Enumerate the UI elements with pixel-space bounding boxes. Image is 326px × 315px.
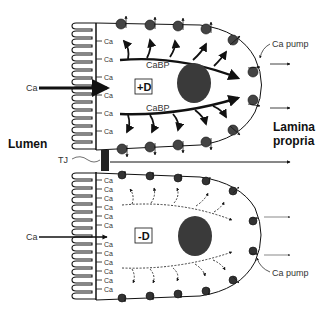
ca-pump-label-bottom: Ca pump: [272, 268, 309, 278]
ca-site-label: Ca: [104, 38, 113, 45]
lumen-label: Lumen: [8, 137, 47, 151]
ca-entry-label-top: Ca: [26, 83, 38, 93]
cabp-label-lower: CaBP: [146, 103, 170, 113]
ca-site-label: Ca: [104, 250, 113, 257]
ca-entry-label-bottom: Ca: [26, 232, 38, 242]
minus-d-label: -D: [138, 230, 150, 242]
ca-site-label: Ca: [104, 213, 113, 220]
nucleus-top: [177, 63, 211, 103]
ca-site-label: Ca: [104, 241, 113, 248]
ca-site-label: Ca: [104, 56, 113, 63]
minus-d-cell: Ca Ca Ca Ca Ca Ca Ca Ca Ca Ca Ca Ca Ca: [26, 171, 309, 302]
ca-site-label: Ca: [104, 268, 113, 275]
tight-junction: [101, 150, 109, 171]
ca-pump-pointer-top: [260, 44, 270, 58]
ca-site-label: Ca: [104, 110, 113, 117]
ca-site-label: Ca: [104, 259, 113, 266]
ca-site-label: Ca: [104, 92, 113, 99]
plus-d-cell: Ca Ca Ca Ca Ca Ca Ca CaBP CaBP: [26, 16, 309, 157]
lamina-propria-label-line2: propria: [273, 134, 315, 148]
tj-pointer: [72, 157, 100, 162]
ca-pump-pointer-bottom: [257, 258, 270, 272]
cabp-label-upper: CaBP: [146, 60, 170, 70]
ca-site-label: Ca: [104, 286, 113, 293]
ca-site-label: Ca: [104, 186, 113, 193]
ca-site-label: Ca: [104, 177, 113, 184]
tj-label: TJ: [58, 155, 68, 165]
ca-pump-label-top: Ca pump: [272, 39, 309, 49]
ca-site-label: Ca: [104, 128, 113, 135]
calcium-transport-diagram: Ca Ca Ca Ca Ca Ca Ca CaBP CaBP: [0, 0, 326, 315]
ca-site-label: Ca: [104, 277, 113, 284]
ca-site-label: Ca: [104, 204, 113, 211]
lamina-propria-label-line1: Lamina: [273, 120, 315, 134]
plus-d-label: +D: [137, 81, 151, 93]
brush-border-bottom: [72, 172, 96, 300]
ca-site-label: Ca: [104, 195, 113, 202]
nucleus-bottom: [178, 216, 212, 256]
ca-binding-sites-bottom: Ca Ca Ca Ca Ca Ca Ca Ca Ca Ca Ca Ca: [96, 177, 113, 293]
ca-site-label: Ca: [104, 74, 113, 81]
ca-site-label: Ca: [104, 222, 113, 229]
